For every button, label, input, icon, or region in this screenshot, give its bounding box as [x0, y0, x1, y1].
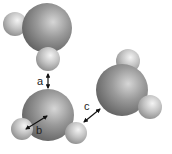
distance-a: a	[37, 74, 48, 88]
hydrogen-atom	[65, 122, 87, 144]
water-molecule-top	[3, 3, 72, 71]
label-b: b	[36, 124, 42, 136]
hydrogen-atom	[11, 118, 33, 140]
distance-c: c	[84, 100, 100, 122]
label-a: a	[37, 75, 44, 87]
hydrogen-atom	[138, 95, 162, 119]
label-c: c	[84, 100, 90, 112]
oxygen-atom	[22, 3, 72, 53]
water-molecule-bottom-left	[11, 89, 87, 144]
hydrogen-atom	[36, 47, 60, 71]
water-molecule-right	[96, 49, 162, 119]
water-molecules-diagram: a b c	[0, 0, 172, 154]
